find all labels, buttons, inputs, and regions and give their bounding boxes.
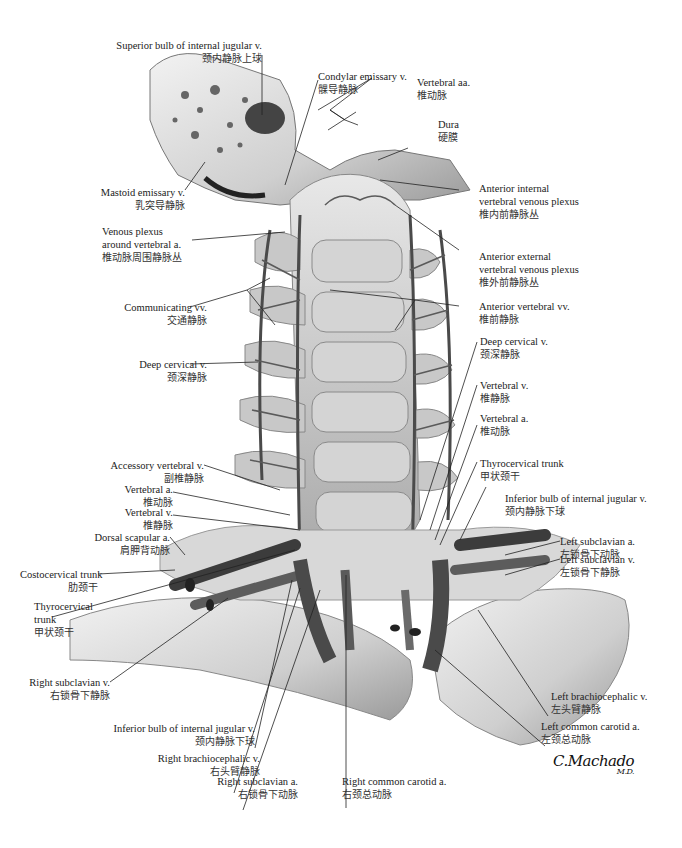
label-zh: 椎动脉周围静脉丛 — [102, 251, 182, 264]
label-zh: 甲状颈干 — [34, 626, 93, 639]
label-en: Condylar emissary v. — [318, 71, 407, 82]
label-superior-bulb-ijv: Superior bulb of internal jugular v. 颈内静… — [112, 39, 262, 65]
label-venous-plexus-vertebral: Venous plexus around vertebral a. 椎动脉周围静… — [102, 225, 182, 264]
label-en: Thyrocervical trunk — [480, 458, 564, 469]
label-en: Vertebral v. — [480, 380, 528, 391]
label-en: Left subclavian v. — [560, 554, 635, 565]
label-zh: 椎外前静脉丛 — [479, 276, 579, 289]
label-en: Left brachiocephalic v. — [551, 691, 647, 702]
label-left-common-carotid: Left common carotid a. 左颈总动脉 — [541, 720, 640, 746]
label-zh: 椎动脉 — [480, 425, 528, 438]
label-zh: 左锁骨下静脉 — [560, 566, 635, 579]
label-en: Deep cervical v. — [480, 336, 548, 347]
label-en: Left subclavian a. — [560, 536, 635, 547]
label-en: Costocervical trunk — [20, 569, 103, 580]
label-en: around vertebral a. — [102, 239, 181, 250]
label-en: Anterior vertebral vv. — [479, 301, 570, 312]
label-zh: 椎前静脉 — [479, 313, 570, 326]
label-anterior-vertebral-vv: Anterior vertebral vv. 椎前静脉 — [479, 300, 570, 326]
label-thyrocervical-right: Thyrocervical trunk 甲状颈干 — [480, 457, 564, 483]
label-zh: 颈深静脉 — [480, 348, 548, 361]
label-zh: 椎内前静脉丛 — [479, 208, 579, 221]
label-communicating-vv: Communicating vv. 交通静脉 — [90, 301, 207, 327]
label-thyrocervical-left: Thyrocervical trunk 甲状颈干 — [34, 600, 93, 639]
label-zh: 右锁骨下静脉 — [20, 689, 110, 702]
label-condylar-emissary: Condylar emissary v. 髁导静脉 — [318, 70, 407, 96]
label-en: Vertebral v. — [125, 507, 173, 518]
label-dorsal-scapular: Dorsal scapular a. 肩胛背动脉 — [60, 531, 170, 557]
label-en: Venous plexus — [102, 226, 163, 237]
label-en: Dorsal scapular a. — [94, 532, 170, 543]
label-mastoid-emissary: Mastoid emissary v. 乳突导静脉 — [40, 186, 185, 212]
label-zh: 颈深静脉 — [100, 371, 207, 384]
label-en: Superior bulb of internal jugular v. — [116, 40, 262, 51]
label-en: trunk — [34, 614, 56, 625]
label-en: Inferior bulb of internal jugular v. — [505, 493, 647, 504]
label-zh: 肩胛背动脉 — [60, 544, 170, 557]
label-en: Anterior external — [479, 251, 551, 262]
label-right-common-carotid: Right common carotid a. 右颈总动脉 — [342, 775, 446, 801]
label-zh: 肋颈干 — [20, 581, 98, 594]
label-zh: 颈内静脉下球 — [505, 505, 647, 518]
label-en: Communicating vv. — [124, 302, 207, 313]
label-inferior-bulb-ijv-left: Inferior bulb of internal jugular v. 颈内静… — [60, 722, 255, 748]
label-zh: 乳突导静脉 — [40, 199, 185, 212]
label-en: Right subclavian v. — [29, 677, 110, 688]
label-zh: 颈内静脉下球 — [60, 735, 255, 748]
label-zh: 椎动脉 — [417, 89, 470, 102]
label-deep-cervical-right: Deep cervical v. 颈深静脉 — [480, 335, 548, 361]
label-en: Deep cervical v. — [139, 359, 207, 370]
label-en: Left common carotid a. — [541, 721, 640, 732]
label-zh: 硬膜 — [438, 131, 459, 144]
label-vertebral-a-right: Vertebral a. 椎动脉 — [480, 412, 528, 438]
label-en: Right common carotid a. — [342, 776, 446, 787]
label-vertebral-v-right: Vertebral v. 椎静脉 — [480, 379, 528, 405]
label-right-subclavian-v: Right subclavian v. 右锁骨下静脉 — [20, 676, 110, 702]
label-zh: 椎静脉 — [480, 392, 528, 405]
label-zh: 右颈总动脉 — [342, 788, 446, 801]
label-en: Thyrocervical — [34, 601, 93, 612]
label-en: Vertebral aa. — [417, 77, 470, 88]
label-dura: Dura 硬膜 — [438, 118, 459, 144]
label-en: Right brachiocephalic v. — [158, 753, 260, 764]
label-accessory-vertebral: Accessory vertebral v. 副椎静脉 — [80, 459, 204, 485]
label-zh: 髁导静脉 — [318, 83, 407, 96]
label-right-subclavian-a: Right subclavian a. 右锁骨下动脉 — [180, 775, 298, 801]
label-en: Accessory vertebral v. — [111, 460, 205, 471]
label-zh: 左头臂静脉 — [551, 703, 647, 716]
artist-signature: C.Machado M.D. — [553, 752, 634, 776]
label-vertebral-aa: Vertebral aa. 椎动脉 — [417, 76, 470, 102]
label-left-subclavian-v: Left subclavian v. 左锁骨下静脉 — [560, 553, 635, 579]
label-en: Inferior bulb of internal jugular v. — [113, 723, 255, 734]
label-deep-cervical-left: Deep cervical v. 颈深静脉 — [100, 358, 207, 384]
label-en: Right subclavian a. — [217, 776, 298, 787]
label-anterior-internal-plexus: Anterior internal vertebral venous plexu… — [479, 182, 579, 221]
label-zh: 颈内静脉上球 — [112, 52, 262, 65]
label-zh: 交通静脉 — [90, 314, 207, 327]
label-en: Vertebral a. — [480, 413, 528, 424]
label-en: Mastoid emissary v. — [101, 187, 185, 198]
label-en: Anterior internal — [479, 183, 549, 194]
label-zh: 甲状颈干 — [480, 470, 564, 483]
label-costocervical: Costocervical trunk 肋颈干 — [20, 568, 98, 594]
label-en: Vertebral a. — [125, 484, 173, 495]
label-vertebral-v-left: Vertebral v. 椎静脉 — [100, 506, 173, 532]
label-left-brachiocephalic: Left brachiocephalic v. 左头臂静脉 — [551, 690, 647, 716]
label-anterior-external-plexus: Anterior external vertebral venous plexu… — [479, 250, 579, 289]
label-en: Dura — [438, 119, 459, 130]
label-zh: 左颈总动脉 — [541, 733, 640, 746]
label-zh: 右锁骨下动脉 — [180, 788, 298, 801]
label-inferior-bulb-ijv-right: Inferior bulb of internal jugular v. 颈内静… — [505, 492, 647, 518]
label-en: vertebral venous plexus — [479, 264, 579, 275]
label-en: vertebral venous plexus — [479, 196, 579, 207]
